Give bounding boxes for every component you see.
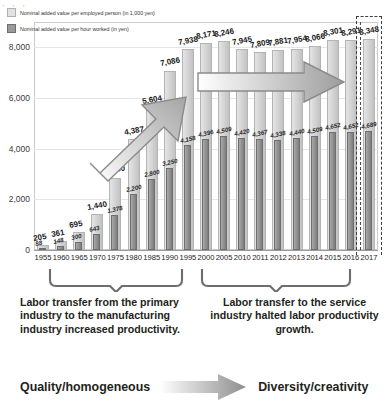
bar-hour-worked xyxy=(130,194,137,250)
transition-arrow-icon xyxy=(160,374,246,400)
bar-hour-worked xyxy=(347,132,354,250)
y-tick-label: 4,000 xyxy=(0,144,30,154)
bar-value-label-employed: 1,440 xyxy=(87,199,108,211)
bars-container: 205883611486953001,4406432,8401,3784,387… xyxy=(34,22,378,250)
bar-hour-worked xyxy=(166,168,173,250)
bar-hour-worked xyxy=(329,132,336,250)
bottom-right-term: Diversity/creativity xyxy=(246,380,368,394)
bar-hour-worked xyxy=(238,138,245,250)
bar-hour-worked xyxy=(311,136,318,250)
bar-hour-worked xyxy=(93,234,100,250)
bar-hour-worked xyxy=(256,139,263,250)
y-tick-label: 8,000 xyxy=(0,42,30,52)
bar-hour-worked xyxy=(111,215,118,250)
bar-value-label-employed: 2,840 xyxy=(105,164,126,176)
bar-hour-worked xyxy=(220,136,227,250)
bar-hour-worked xyxy=(148,179,155,250)
x-axis-year-labels: 1955196019651970197519801985199019952000… xyxy=(34,253,378,267)
legend-swatch-icon-series1 xyxy=(7,8,16,17)
legend-label-series1: Nominal added value per employed person … xyxy=(20,10,155,16)
bar-hour-worked xyxy=(75,242,82,250)
bar-hour-worked xyxy=(202,139,209,250)
bar-value-label-employed: 695 xyxy=(69,219,84,230)
forecast-highlight-box xyxy=(356,16,382,255)
bar-hour-worked xyxy=(293,138,300,250)
x-axis-line xyxy=(34,250,378,251)
bar-hour-worked xyxy=(274,140,281,250)
bar-hour-worked xyxy=(184,145,191,250)
bottom-left-term: Quality/homogeneous xyxy=(0,380,150,394)
bar-value-label-employed: 7,086 xyxy=(159,56,180,68)
legend-item-employed-person: Nominal added value per employed person … xyxy=(7,8,155,17)
caption-left: Labor transfer from the primary industry… xyxy=(0,296,201,336)
y-tick-label: 0 xyxy=(0,245,30,255)
y-tick-label: 6,000 xyxy=(0,93,30,103)
captions-row: Labor transfer from the primary industry… xyxy=(0,296,388,336)
bottom-transition-row: Quality/homogeneous Diversity/creativity xyxy=(0,374,388,400)
caption-right: Labor transfer to the service industry h… xyxy=(201,296,388,336)
caption-brackets xyxy=(34,268,378,292)
legend-swatch-icon-series2 xyxy=(7,24,16,33)
y-tick-label: 2,000 xyxy=(0,194,30,204)
bar-value-label-employed: 4,387 xyxy=(123,125,144,137)
bar-value-label-hourly: 88 xyxy=(35,238,43,246)
bar-value-label-employed: 5,604 xyxy=(141,94,162,106)
x-tick-label: 2017 xyxy=(358,253,380,262)
